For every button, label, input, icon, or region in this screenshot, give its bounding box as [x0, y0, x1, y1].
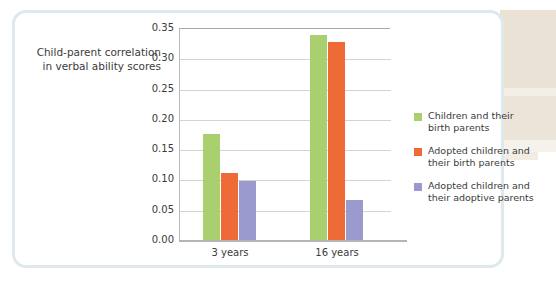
legend-label: Adopted children and their adoptive pare… [428, 180, 534, 204]
y-axis-tick-label: 0.05 [138, 204, 174, 215]
bar-group-3-years [203, 28, 257, 240]
bar[interactable] [203, 134, 220, 240]
legend-swatch-icon [414, 148, 422, 156]
y-axis-tick-label: 0.35 [138, 22, 174, 33]
bar[interactable] [328, 42, 345, 240]
x-axis-category-label: 3 years [190, 247, 270, 258]
bar[interactable] [310, 35, 327, 240]
legend-item[interactable]: Adopted children and their adoptive pare… [414, 180, 540, 204]
legend-swatch-icon [414, 183, 422, 191]
bar-group-16-years [310, 28, 364, 240]
chart-legend: Children and their birth parentsAdopted … [414, 110, 540, 215]
legend-item[interactable]: Adopted children and their birth parents [414, 145, 540, 169]
bar[interactable] [346, 200, 363, 240]
bar[interactable] [221, 173, 238, 240]
y-axis-tick-label: 0.00 [138, 234, 174, 245]
legend-label: Adopted children and their birth parents [428, 145, 530, 169]
x-axis-line [179, 240, 407, 242]
y-axis-tick-labels: 0.350.300.250.200.150.100.050.00 [136, 0, 174, 286]
legend-swatch-icon [414, 113, 422, 121]
y-axis-tick-label: 0.30 [138, 52, 174, 63]
legend-item[interactable]: Children and their birth parents [414, 110, 540, 134]
x-axis-category-label: 16 years [297, 247, 377, 258]
y-axis-tick-label: 0.20 [138, 113, 174, 124]
bar[interactable] [239, 181, 256, 240]
y-axis-tick-label: 0.15 [138, 143, 174, 154]
y-axis-tick-label: 0.25 [138, 83, 174, 94]
legend-label: Children and their birth parents [428, 110, 514, 134]
y-axis-tick-label: 0.10 [138, 173, 174, 184]
